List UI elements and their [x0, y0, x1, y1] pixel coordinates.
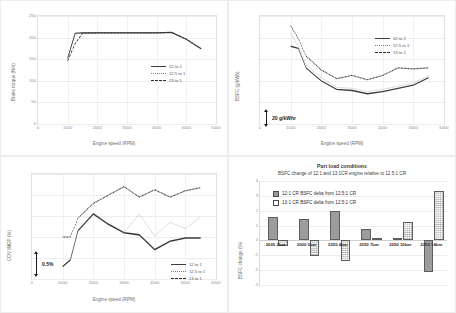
legend-swatch-solid-icon	[375, 38, 390, 39]
legend-swatch-dotted-icon	[151, 73, 166, 74]
chart-title-bsfc-delta: Part load conditions	[229, 163, 455, 169]
legend-item-12to1: 12 to 1	[375, 35, 409, 42]
axis-label-x-cov-imep: Engine speed (RPM)	[1, 297, 227, 302]
legend-label: 12 to 1	[393, 36, 406, 41]
four-panel-figure: 250 200 150 100 50 0 0 1000 2000 3000 40…	[0, 0, 456, 313]
legend-bsfc-delta: 12:1 CR BSFC delta from 12.5:1 CR 13:1 C…	[273, 189, 356, 207]
xtick: 2000	[89, 281, 98, 285]
ytick-brake-torque: 100	[29, 79, 36, 83]
xtick: 0	[37, 126, 39, 130]
legend-label: 13 to 1	[393, 50, 406, 55]
series-line-12p5to1	[63, 214, 201, 267]
xtick: 5000	[409, 126, 418, 130]
xtick: 0	[259, 126, 261, 130]
ytick-brake-torque: 200	[29, 35, 36, 39]
series-lines-brake-torque	[38, 16, 216, 124]
legend-item-13to1: 13 to 1	[171, 275, 205, 282]
legend-item-13to1-delta: 13:1 CR BSFC delta from 12.5:1 CR	[273, 198, 356, 207]
panel-bsfc-delta: Part load conditions BSFC change of 12:1…	[228, 156, 456, 313]
series-line-12to1	[63, 214, 201, 267]
bar-13to1-c3	[372, 238, 382, 240]
legend-item-12to1: 12 to 1	[171, 261, 205, 268]
axis-label-y-cov-imep: COV IMEP (%)	[7, 230, 12, 261]
legend-swatch-dashed-icon	[171, 278, 186, 279]
panel-cov-imep: 0 1000 2000 3000 4000 5000 6000 COV IMEP…	[0, 156, 228, 313]
legend-item-12p5to1: 12.5 to 1	[151, 70, 185, 77]
legend-label: 12 to 1	[189, 262, 202, 267]
panel-bsfc: 0 1000 2000 3000 4000 5000 6000 BSFC (g/…	[228, 0, 456, 156]
xtick: 2000	[93, 126, 102, 130]
legend-label: 12 to 1	[169, 64, 182, 69]
ytick-brake-torque: 150	[29, 57, 36, 61]
legend-label: 13 to 1	[189, 276, 202, 281]
plot-area-brake-torque: 250 200 150 100 50 0 0 1000 2000 3000 40…	[37, 15, 217, 125]
category-label: 2000 2bar	[266, 242, 286, 247]
ytick-brake-torque: 250	[29, 14, 36, 18]
xtick: 4000	[150, 281, 159, 285]
xtick: 1000	[63, 126, 72, 130]
series-line-13to1	[63, 187, 201, 237]
axis-label-y-bsfc: BSFC (g/kWh)	[235, 71, 240, 101]
xtick: 4000	[152, 126, 161, 130]
legend-label: 12.5 to 1	[393, 43, 409, 48]
legend-item-13to1: 13 to 1	[151, 77, 185, 84]
scale-label: 0.5%	[42, 261, 53, 267]
xtick: 6000	[439, 126, 448, 130]
legend-brake-torque: 12 to 1 12.5 to 1 13 to 1	[151, 63, 185, 84]
ytick-bsfc-delta: 1	[256, 223, 258, 227]
legend-cov-imep: 12 to 1 12.5 to 1 13 to 1	[171, 261, 205, 282]
axis-label-y-brake-torque: Brake torque (Nm)	[11, 63, 16, 101]
panel-brake-torque: 250 200 150 100 50 0 0 1000 2000 3000 40…	[0, 0, 228, 156]
legend-swatch-dashed-icon	[375, 52, 390, 53]
xtick: 1000	[58, 281, 67, 285]
category-label: 2250 14bar	[420, 242, 442, 247]
legend-item-13to1: 13 to 1	[375, 49, 409, 56]
xtick: 5000	[182, 126, 191, 130]
chart-subtitle-bsfc-delta: BSFC change of 12:1 and 13:1CR engine re…	[229, 171, 455, 176]
xtick: 6000	[211, 281, 220, 285]
xtick: 6000	[211, 126, 220, 130]
legend-swatch-dotted-icon	[171, 271, 186, 272]
ytick-bsfc-delta: 4	[256, 179, 258, 183]
legend-swatch-solid-icon	[151, 66, 166, 67]
series-lines-bsfc	[260, 16, 444, 124]
bar-13to1-c4	[403, 222, 413, 241]
ytick-bsfc-delta: -1	[254, 253, 258, 257]
legend-item-12to1-delta: 12:1 CR BSFC delta from 12.5:1 CR	[273, 189, 356, 198]
series-line-12to1	[68, 32, 202, 58]
legend-swatch-solid-icon	[171, 264, 186, 265]
category-label: 2250 7bar	[359, 242, 379, 247]
ytick-bsfc-delta: 2	[256, 209, 258, 213]
category-label: 2250 10bar	[389, 242, 411, 247]
xtick: 3000	[122, 126, 131, 130]
scale-label: 20 g/kWhr	[272, 115, 296, 121]
legend-label: 13 to 1	[169, 78, 182, 83]
xtick: 0	[31, 281, 33, 285]
scale-stem	[36, 253, 37, 275]
axis-label-x-brake-torque: Engine speed (RPM)	[1, 141, 227, 146]
legend-swatch-dotted-fill-icon	[273, 200, 279, 206]
category-label: 2000 5bar	[297, 242, 317, 247]
bar-12to1-c4	[393, 238, 403, 240]
legend-item-12to1: 12 to 1	[151, 63, 185, 70]
legend-swatch-dotted-icon	[375, 45, 390, 46]
scale-annotation-cov-imep: 0.5%	[33, 251, 77, 277]
bar-12to1-c2	[330, 211, 340, 240]
ytick-brake-torque: 50	[31, 100, 36, 104]
bar-13to1-c5	[434, 191, 444, 240]
legend-swatch-solid-fill-icon	[273, 191, 279, 197]
arrow-down-icon	[34, 274, 38, 277]
legend-bsfc: 12 to 1 12.5 to 1 13 to 1	[375, 35, 409, 56]
ytick-bsfc-delta: -2	[254, 268, 258, 272]
ytick-bsfc-delta: 3	[256, 194, 258, 198]
category-label: 2250 4bar	[328, 242, 348, 247]
xtick: 4000	[378, 126, 387, 130]
ytick-bsfc-delta: 0	[256, 238, 258, 242]
bar-12to1-c1	[299, 219, 309, 241]
ytick-brake-torque: 0	[34, 122, 36, 126]
legend-label: 12.5 to 1	[169, 71, 185, 76]
bar-12to1-c3	[361, 229, 371, 241]
xtick: 3000	[347, 126, 356, 130]
bar-12to1-c0	[268, 217, 278, 241]
scale-annotation-bsfc: 20 g/kWhr	[263, 109, 323, 127]
